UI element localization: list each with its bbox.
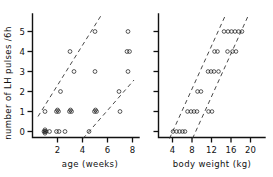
right-x-ticklabels: 4 8 12 16 20 [170, 145, 256, 155]
data-point [217, 70, 221, 74]
right-x-ticklabel-12: 12 [206, 145, 217, 155]
data-point [93, 70, 97, 74]
data-point [210, 110, 214, 114]
right-axis-lines [159, 14, 266, 138]
left-data-points [42, 30, 131, 136]
left-y-ticklabel-5: 5 [20, 27, 25, 37]
left-x-ticklabels: 2 4 6 8 [55, 145, 135, 155]
left-y-ticklabel-4: 4 [20, 47, 25, 57]
right-x-ticklabel-16: 16 [226, 145, 237, 155]
data-point [126, 30, 130, 34]
data-point [207, 110, 211, 114]
data-point [117, 90, 121, 94]
left-y-ticklabel-3: 3 [20, 67, 25, 77]
left-y-ticklabel-0: 0 [20, 127, 25, 137]
data-point [226, 50, 230, 54]
left-y-ticklabel-1: 1 [20, 107, 25, 117]
data-point [118, 110, 122, 114]
data-point [234, 50, 238, 54]
data-point [226, 30, 230, 34]
left-x-ticklabel-4: 4 [80, 145, 85, 155]
data-point [199, 90, 203, 94]
right-y-ticks [154, 32, 159, 132]
left-y-ticklabel-2: 2 [20, 87, 25, 97]
data-point [183, 130, 187, 134]
left-panel: number of LH pulses /6h 0 1 2 3 4 5 [0, 0, 146, 177]
data-point [43, 110, 47, 114]
figure-container: number of LH pulses /6h 0 1 2 3 4 5 [0, 0, 273, 177]
right-fit-line-upper [170, 14, 227, 139]
data-point [68, 50, 72, 54]
data-point [126, 70, 130, 74]
right-panel-plot: 4 8 12 16 20 body weight (kg) [146, 0, 273, 177]
right-x-ticks [173, 138, 251, 143]
left-x-ticklabel-2: 2 [55, 145, 60, 155]
left-panel-plot: number of LH pulses /6h 0 1 2 3 4 5 [0, 0, 146, 177]
data-point [196, 90, 200, 94]
data-point [233, 30, 237, 34]
left-fit-lines [38, 14, 134, 139]
data-point [93, 30, 97, 34]
left-x-axis-label: age (weeks) [62, 159, 118, 169]
left-y-ticks [28, 32, 33, 132]
right-x-ticklabel-4: 4 [170, 145, 175, 155]
left-axis-lines [33, 14, 140, 138]
left-x-ticklabel-8: 8 [130, 145, 135, 155]
data-point [237, 30, 241, 34]
right-panel: 4 8 12 16 20 body weight (kg) [146, 0, 273, 177]
left-fit-line-lower [83, 80, 134, 139]
data-point [72, 70, 76, 74]
data-point [128, 50, 132, 54]
right-x-ticklabel-20: 20 [245, 145, 256, 155]
data-point [63, 130, 67, 134]
data-point [222, 30, 226, 34]
data-point [59, 90, 63, 94]
left-y-ticklabels: 0 1 2 3 4 5 [20, 27, 25, 137]
left-fit-line-upper [38, 14, 102, 117]
left-x-ticks [58, 138, 133, 143]
left-y-axis-label: number of LH pulses /6h [3, 26, 13, 139]
data-point [186, 110, 190, 114]
data-point [57, 130, 61, 134]
data-point [230, 30, 234, 34]
data-point [231, 50, 235, 54]
left-x-ticklabel-6: 6 [105, 145, 110, 155]
right-x-axis-label: body weight (kg) [173, 159, 251, 169]
right-data-points [171, 30, 244, 134]
right-x-ticklabel-8: 8 [189, 145, 194, 155]
